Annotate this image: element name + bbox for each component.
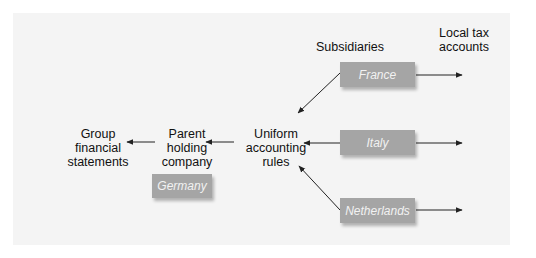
subsidiaries-header: Subsidiaries <box>310 40 390 54</box>
label-line: Parent <box>147 127 227 141</box>
arrow-netherlands-to-rules <box>299 166 340 210</box>
parent-holding-company-label: Parent holding company <box>147 127 227 169</box>
germany-box: Germany <box>152 174 212 198</box>
label-line: Group <box>58 127 138 141</box>
france-box: France <box>340 62 415 87</box>
label-line: rules <box>234 155 318 169</box>
italy-box: Italy <box>340 130 415 155</box>
label-line: holding <box>147 141 227 155</box>
local-tax-accounts-header: Local tax accounts <box>424 26 504 54</box>
label-line: statements <box>58 155 138 169</box>
label-line: financial <box>58 141 138 155</box>
netherlands-box: Netherlands <box>340 198 415 223</box>
uniform-accounting-rules-label: Uniform accounting rules <box>234 127 318 169</box>
label-line: Uniform <box>234 127 318 141</box>
arrow-france-to-rules <box>298 73 340 113</box>
label-line: accounts <box>424 40 504 54</box>
label-line: Local tax <box>424 26 504 40</box>
label-line: company <box>147 155 227 169</box>
group-financial-statements-label: Group financial statements <box>58 127 138 169</box>
label-line: accounting <box>234 141 318 155</box>
